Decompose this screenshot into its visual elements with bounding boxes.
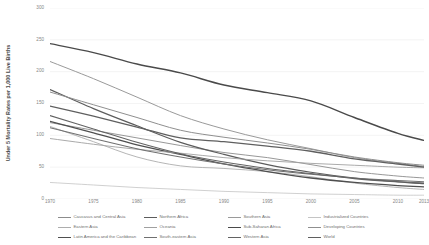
legend-item[interactable]: Sub-Saharan Africa [228,222,308,232]
legend-item[interactable]: Northern Africa [144,212,228,222]
legend-label: Southern Asia [244,215,271,219]
x-axis-tick-labels: 1970197519801985199019952000200520102013 [50,200,424,210]
legend-label: Oceania [160,225,176,229]
legend-swatch-icon [58,227,71,228]
y-axis-title-label: Under 5 Mortality Rates per 1,000 Live B… [5,44,11,161]
legend-swatch-icon [308,217,321,218]
x-tick-label: 2000 [306,200,316,205]
legend-swatch-icon [58,237,71,238]
chart-legend: Caucasus and Central AsiaEastern AsiaLat… [58,212,424,243]
legend-swatch-icon [144,227,157,228]
legend-swatch-icon [144,237,157,238]
legend-item[interactable]: Developing Countries [308,222,408,232]
x-tick-label: 1990 [219,200,229,205]
legend-label: Sub-Saharan Africa [244,225,281,229]
x-tick-label: 2005 [349,200,359,205]
series-line [50,44,424,141]
legend-label: South-eastern Asia [160,235,196,239]
under-five-mortality-line-chart: Under 5 Mortality Rates per 1,000 Live B… [0,0,429,245]
legend-swatch-icon [228,227,241,228]
legend-item[interactable]: World [308,232,408,242]
x-tick-label: 1975 [88,200,98,205]
x-tick-label: 1980 [132,200,142,205]
legend-label: Developing Countries [324,225,365,229]
legend-item[interactable]: Industrialized Countries [308,212,408,222]
legend-label: Western Asia [244,235,269,239]
series-lines [50,8,424,199]
y-tick-label: 0 [18,197,44,202]
legend-item[interactable]: Eastern Asia [58,222,144,232]
plot-area [50,8,424,199]
x-tick-label: 1995 [262,200,272,205]
legend-item[interactable]: Oceania [144,222,228,232]
legend-label: World [324,235,335,239]
legend-label: Northern Africa [160,215,189,219]
legend-swatch-icon [58,217,71,218]
legend-item[interactable]: Western Asia [228,232,308,242]
legend-swatch-icon [308,227,321,228]
x-tick-label: 1985 [175,200,185,205]
legend-item[interactable]: South-eastern Asia [144,232,228,242]
legend-item[interactable]: Caucasus and Central Asia [58,212,144,222]
legend-label: Eastern Asia [74,225,98,229]
legend-swatch-icon [228,237,241,238]
x-tick-label: 2010 [393,200,403,205]
y-tick-label: 100 [18,133,44,138]
y-tick-label: 50 [18,165,44,170]
y-tick-label: 200 [18,69,44,74]
y-tick-label: 250 [18,38,44,43]
legend-label: Caucasus and Central Asia [74,215,126,219]
y-tick-label: 150 [18,101,44,106]
legend-label: Industrialized Countries [324,215,369,219]
x-tick-label: 1970 [45,200,55,205]
legend-swatch-icon [308,237,321,238]
x-tick-label: 2013 [419,200,429,205]
legend-swatch-icon [228,217,241,218]
y-axis-tick-labels: 050100150200250300 [14,0,44,245]
legend-label: Latin America and the Caribbean [74,235,137,239]
y-tick-label: 300 [18,6,44,11]
legend-item[interactable]: Southern Asia [228,212,308,222]
legend-swatch-icon [144,217,157,218]
legend-item[interactable]: Latin America and the Caribbean [58,232,144,242]
